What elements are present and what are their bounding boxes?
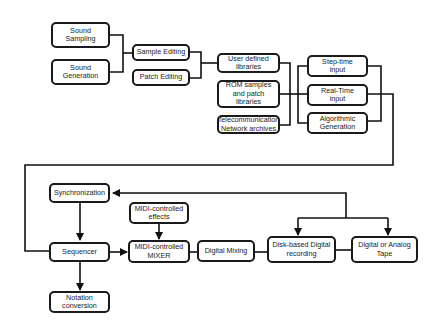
node-rom-samples: ROM samples and patch libraries (217, 80, 280, 108)
node-patch-editing: Patch Editing (132, 69, 190, 86)
connector-lines (0, 0, 442, 328)
node-sequencer: Sequencer (49, 242, 110, 262)
node-midi-effects: MIDI-controlled effects (129, 202, 189, 224)
node-label: Telecommunication Network archives (218, 116, 280, 133)
node-label: Sample Editing (137, 48, 185, 56)
node-disk-recording: Disk-based Digital recording (267, 236, 336, 263)
node-label: Disk-based Digital recording (273, 241, 331, 258)
node-label: Step-time input (322, 58, 353, 75)
node-label: Sequencer (62, 248, 97, 256)
node-sound-sampling: Sound Sampling (51, 22, 110, 48)
node-label: User defined libraries (228, 55, 269, 72)
node-label: Algorithmic Generation (320, 115, 356, 132)
node-label: Sound Sampling (66, 27, 96, 44)
node-step-time: Step-time input (307, 55, 368, 77)
node-label: Notation conversion (62, 294, 97, 311)
node-label: Sound Generation (63, 64, 99, 81)
node-user-libraries: User defined libraries (217, 53, 280, 73)
node-tape: Digital or Analog Tape (351, 236, 418, 263)
node-sample-editing: Sample Editing (132, 44, 190, 61)
node-sound-generation: Sound Generation (51, 59, 110, 85)
node-real-time: Real-Time input (307, 84, 368, 106)
node-label: MIDI-controlled MIXER (135, 243, 184, 260)
node-telecom-archives: Telecommunication Network archives (217, 115, 280, 134)
node-label: MIDI-controlled effects (135, 205, 184, 222)
node-label: Real-Time input (321, 87, 354, 104)
node-synchronization: Synchronization (49, 183, 110, 203)
node-algorithmic: Algorithmic Generation (307, 112, 368, 134)
node-label: Synchronization (54, 189, 105, 197)
node-notation: Notation conversion (49, 291, 110, 313)
node-digital-mixing: Digital Mixing (197, 240, 255, 262)
node-midi-mixer: MIDI-controlled MIXER (128, 240, 190, 263)
node-label: ROM samples and patch libraries (226, 81, 272, 106)
node-label: Patch Editing (140, 73, 182, 81)
node-label: Digital or Analog Tape (355, 241, 414, 258)
node-label: Digital Mixing (205, 247, 248, 255)
